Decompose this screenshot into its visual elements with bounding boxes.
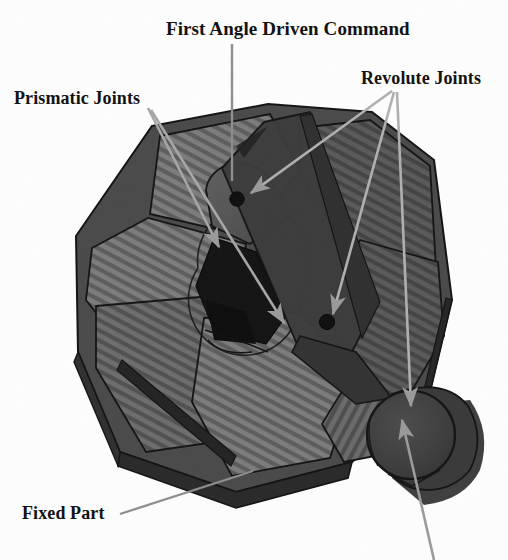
diagram-canvas: First Angle Driven Command Prismatic Joi… [0, 0, 508, 560]
revolute-pin-lower [319, 314, 334, 329]
label-fixed-part: Fixed Part [22, 503, 104, 524]
label-first-angle-driven-command: First Angle Driven Command [166, 18, 410, 40]
revolute-pin-upper [230, 192, 244, 206]
rotary-disc [367, 387, 478, 490]
label-prismatic-joints: Prismatic Joints [14, 88, 140, 109]
label-revolute-joints: Revolute Joints [361, 68, 481, 89]
